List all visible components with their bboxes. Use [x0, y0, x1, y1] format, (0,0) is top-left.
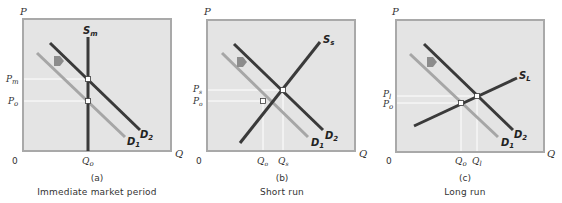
panel-title-c: Long run	[444, 187, 485, 197]
price-label-po: Po	[382, 99, 393, 111]
q-axis-label: Q	[175, 148, 183, 159]
origin-label: 0	[386, 156, 392, 166]
panel-a: P Q 0 Pm Po Qo Sm D2 D1 (a) Immediate ma…	[5, 6, 183, 197]
equilibrium-point-initial	[86, 99, 91, 104]
p-axis-label: P	[203, 6, 211, 17]
equilibrium-point-new	[281, 88, 286, 93]
origin-label: 0	[12, 156, 18, 166]
panel-tag-a: (a)	[91, 173, 104, 183]
equilibrium-point-initial	[261, 99, 266, 104]
panel-b: P Q 0 Ps Po Qo Qs Ss D2 D1 (b) Short run	[192, 6, 367, 197]
panel-title-b: Short run	[260, 187, 304, 197]
price-label-po: Po	[7, 96, 18, 108]
q-axis-label: Q	[359, 148, 367, 159]
panel-c: P Q 0 Pl Po Qo Ql SL D2 D1 (c) Long run	[382, 6, 555, 197]
p-axis-label: P	[391, 6, 399, 17]
equilibrium-point-initial	[459, 101, 464, 106]
quantity-label-qo: Qo	[455, 156, 467, 168]
plot-area	[23, 19, 171, 151]
figure-three-panels: P Q 0 Pm Po Qo Sm D2 D1 (a) Immediate ma…	[0, 0, 562, 203]
quantity-label-qo: Qo	[257, 156, 268, 167]
p-axis-label: P	[19, 6, 27, 17]
quantity-label-qo: Qo	[82, 156, 94, 168]
equilibrium-point-new	[475, 94, 480, 99]
price-label-ps: Ps	[192, 84, 202, 95]
panel-tag-b: (b)	[276, 173, 289, 183]
origin-label: 0	[196, 156, 202, 166]
quantity-label-qs: Qs	[278, 156, 288, 167]
equilibrium-point-new	[86, 77, 91, 82]
price-label-po: Po	[192, 96, 203, 107]
quantity-label-ql: Ql	[472, 156, 482, 168]
price-label-pm: Pm	[5, 74, 19, 86]
panel-tag-c: (c)	[459, 173, 471, 183]
q-axis-label: Q	[547, 148, 555, 159]
panel-title-a: Immediate market period	[37, 187, 156, 197]
